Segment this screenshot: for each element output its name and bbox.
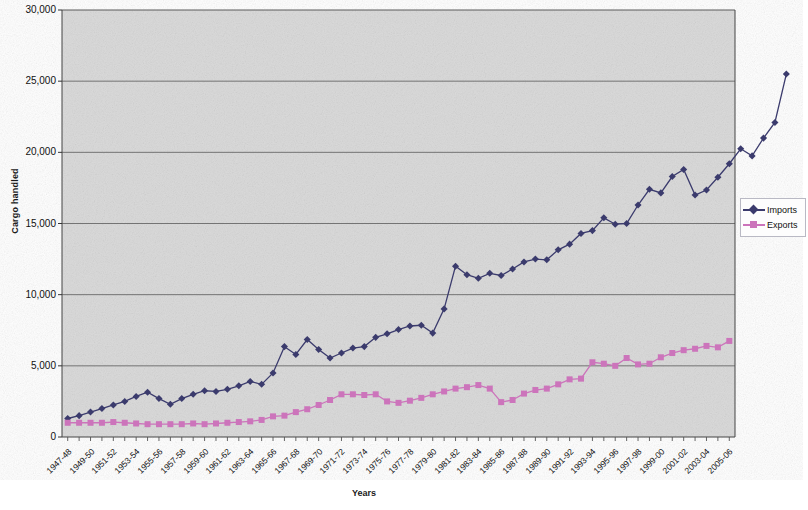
plot-area — [62, 10, 735, 437]
legend-key-exports — [743, 220, 765, 230]
y-tick-label: 0 — [6, 431, 56, 442]
diamond-marker-icon — [749, 205, 759, 215]
y-tick-label: 5,000 — [6, 360, 56, 371]
legend-label-imports: Imports — [767, 205, 797, 215]
square-marker-icon — [750, 221, 757, 228]
y-tick-label: 30,000 — [6, 4, 56, 15]
cargo-handled-line-chart: Cargo handled Years 05,00010,00015,00020… — [0, 0, 808, 510]
data-point-imports — [783, 71, 790, 78]
y-tick-label: 25,000 — [6, 75, 56, 86]
y-axis-title: Cargo handled — [10, 146, 20, 256]
y-tick-label: 20,000 — [6, 146, 56, 157]
chart-legend: Imports Exports — [740, 198, 806, 237]
legend-item-exports[interactable]: Exports — [743, 217, 803, 232]
y-tick-label: 15,000 — [6, 218, 56, 229]
legend-label-exports: Exports — [767, 220, 798, 230]
data-point-imports — [749, 152, 756, 159]
legend-key-imports — [743, 205, 765, 215]
legend-item-imports[interactable]: Imports — [743, 202, 803, 217]
y-tick-label: 10,000 — [6, 289, 56, 300]
